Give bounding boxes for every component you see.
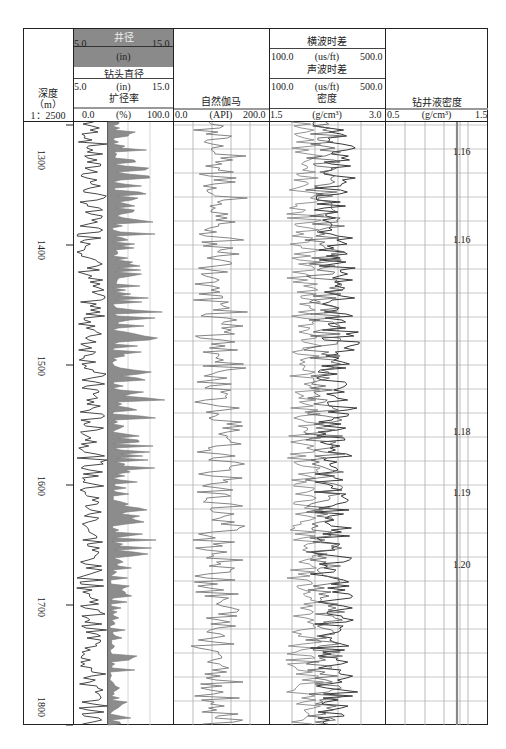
log-curves <box>0 0 506 749</box>
mud-value-label: 1.18 <box>453 426 471 438</box>
mud-value-label: 1.16 <box>453 234 471 246</box>
depth-tick-1700: 1700 <box>35 597 47 617</box>
depth-tick-1600: 1600 <box>35 476 47 496</box>
mud-value-label: 1.19 <box>453 487 471 499</box>
mud-value-label: 1.20 <box>453 559 471 571</box>
depth-tick-1300: 1300 <box>35 150 47 170</box>
depth-tick-1400: 1400 <box>35 240 47 260</box>
depth-tick-1500: 1500 <box>35 356 47 376</box>
depth-tick-1800: 1800 <box>35 697 47 717</box>
mud-value-label: 1.16 <box>453 146 471 158</box>
